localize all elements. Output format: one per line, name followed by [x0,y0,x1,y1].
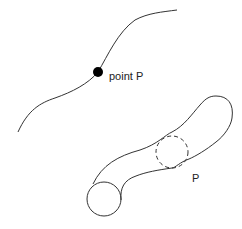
mid-cross-section-circle [156,136,188,168]
tube-lower-edge [121,142,216,200]
point-p-dot [93,67,103,77]
point-p-label: point P [109,70,143,82]
tube-p-label: P [192,172,199,184]
tube-top-cap [216,96,232,142]
diagram-canvas: point P P [0,0,242,229]
end-cross-section-circle [87,182,121,216]
